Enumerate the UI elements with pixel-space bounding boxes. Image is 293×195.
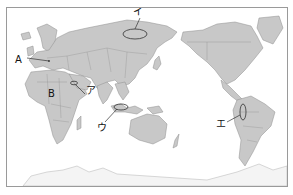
greenland: [257, 16, 283, 44]
india: [97, 82, 113, 104]
label-e: エ: [216, 119, 226, 129]
australia: [129, 114, 167, 144]
antarctica: [23, 164, 287, 186]
label-A: A: [15, 55, 22, 65]
label-u: ウ: [97, 123, 107, 133]
south-america: [233, 96, 275, 166]
label-i: イ: [133, 7, 143, 17]
central-america: [221, 80, 243, 102]
madagascar: [77, 116, 81, 130]
new-guinea: [147, 106, 163, 114]
label-B: B: [48, 89, 55, 99]
iceland-uk: [21, 32, 34, 56]
north-america: [181, 22, 263, 84]
map-frame: イ A B ア ウ エ: [6, 7, 288, 187]
japan: [153, 56, 161, 70]
new-zealand: [173, 134, 179, 148]
label-a-kana: ア: [86, 86, 96, 96]
